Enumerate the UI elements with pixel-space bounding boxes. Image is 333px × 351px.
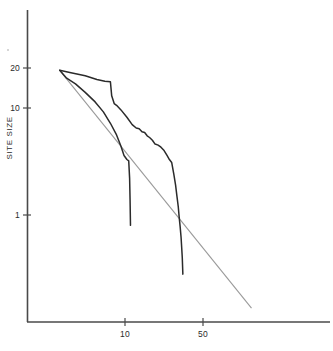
plot-canvas [0,0,333,351]
series-upper-rank-size-curve [60,70,183,274]
y-tick-label-10: 10 [0,103,20,113]
series-lower-rank-size-curve [60,70,131,225]
data-series-group [60,70,252,308]
x-tick-label-10: 10 [113,329,137,339]
y-tick-label-1: 1 [0,210,20,220]
x-tick-label-50: 50 [191,329,215,339]
rank-size-plot-figure: 20 10 1 10 50 SITE SIZE [0,0,333,351]
series-reference-straight-line [60,70,252,308]
y-tick-label-20: 20 [0,63,20,73]
y-axis-label: SITE SIZE [5,146,14,160]
